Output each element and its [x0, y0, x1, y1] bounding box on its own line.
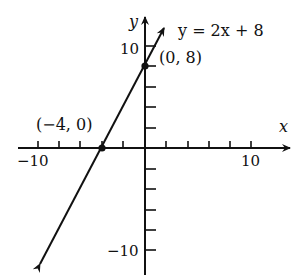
- y-max-label: 10: [120, 40, 139, 58]
- x-min-label: −10: [17, 152, 49, 170]
- linear-graph: y x y = 2x + 8 (0, 8) (−4, 0) −10 10 10 …: [0, 0, 304, 277]
- y-min-label: −10: [107, 242, 139, 260]
- point-y-intercept: [141, 62, 148, 69]
- x-intercept-label: (−4, 0): [36, 115, 92, 134]
- y-intercept-label: (0, 8): [159, 48, 202, 67]
- equation-label: y = 2x + 8: [177, 21, 264, 40]
- x-max-label: 10: [241, 152, 260, 170]
- point-x-intercept: [98, 144, 105, 151]
- x-axis-label: x: [279, 117, 288, 136]
- y-axis-label: y: [128, 12, 139, 31]
